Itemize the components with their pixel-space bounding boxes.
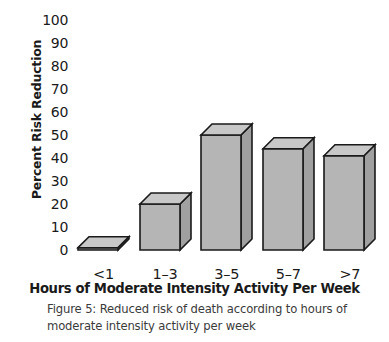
y-tick-label: 100 bbox=[26, 13, 68, 27]
y-tick-label: 80 bbox=[26, 59, 68, 73]
bar-block bbox=[324, 14, 386, 260]
y-tick-label: 40 bbox=[26, 151, 68, 165]
bar-1 bbox=[78, 14, 140, 260]
y-tick-label: 30 bbox=[26, 174, 68, 188]
bar-block bbox=[140, 14, 202, 260]
figure-caption: Figure 5: Reduced risk of death accordin… bbox=[47, 301, 347, 335]
figure-caption-line-1: Figure 5: Reduced risk of death accordin… bbox=[47, 301, 347, 318]
bar-block bbox=[263, 14, 325, 260]
bar-block bbox=[78, 14, 140, 260]
x-axis-title: Hours of Moderate Intensity Activity Per… bbox=[0, 281, 389, 296]
bar-3 bbox=[201, 14, 263, 260]
y-tick-label: 70 bbox=[26, 82, 68, 96]
bar-4 bbox=[263, 14, 325, 260]
y-tick-label: 90 bbox=[26, 36, 68, 50]
bar-2 bbox=[140, 14, 202, 260]
y-tick-label: 60 bbox=[26, 105, 68, 119]
plot-area: 1009080706050403020100 <11–33–55–7>7 bbox=[26, 14, 382, 260]
figure-caption-line-2: moderate intensity activity per week bbox=[47, 318, 347, 335]
y-tick-label: 10 bbox=[26, 220, 68, 234]
y-tick-label: 20 bbox=[26, 197, 68, 211]
figure-bar-chart: Percent Risk Reduction 10090807060504030… bbox=[0, 0, 389, 342]
bar-block bbox=[201, 14, 263, 260]
y-tick-label: 0 bbox=[26, 243, 68, 257]
bar-5 bbox=[324, 14, 386, 260]
bar-series bbox=[74, 14, 382, 260]
y-tick-label: 50 bbox=[26, 128, 68, 142]
y-axis-tick-labels: 1009080706050403020100 bbox=[26, 14, 68, 260]
